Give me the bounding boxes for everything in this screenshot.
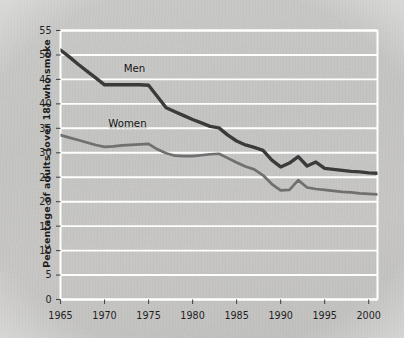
y-tick-label-20: 20 [39, 196, 51, 207]
y-tick-label-35: 35 [39, 123, 51, 134]
series-label-men: Men [124, 63, 146, 74]
x-tick-label-1990: 1990 [268, 310, 292, 321]
y-tick-label-15: 15 [39, 221, 51, 232]
series-label-women: Women [108, 118, 146, 129]
gridlines [61, 31, 378, 300]
y-tick-label-10: 10 [39, 245, 51, 256]
x-tick-label-1965: 1965 [48, 310, 72, 321]
plot-area: 0510152025303540455055 19651970197519801… [0, 0, 404, 338]
x-tick-label-1980: 1980 [180, 310, 204, 321]
smoking-prevalence-line-chart: Percentage of adults (over 18) who smoke… [0, 0, 404, 338]
y-tick-label-50: 50 [39, 49, 51, 60]
x-axis-tick-labels: 19651970197519801985199019952000 [48, 300, 381, 321]
y-tick-label-0: 0 [45, 294, 51, 305]
y-tick-label-25: 25 [39, 172, 51, 183]
x-tick-label-1985: 1985 [224, 310, 248, 321]
y-tick-label-30: 30 [39, 147, 51, 158]
axis-frame [61, 31, 378, 300]
series-line-women [61, 135, 378, 194]
series-inline-labels: MenMenWomenWomen [108, 63, 146, 130]
x-tick-label-2000: 2000 [356, 310, 380, 321]
y-axis-tick-labels: 0510152025303540455055 [39, 25, 60, 305]
y-tick-label-55: 55 [39, 25, 51, 36]
x-tick-label-1975: 1975 [136, 310, 160, 321]
y-tick-label-45: 45 [39, 74, 51, 85]
x-tick-label-1970: 1970 [92, 310, 116, 321]
x-tick-label-1995: 1995 [312, 310, 336, 321]
y-tick-label-5: 5 [45, 269, 51, 280]
y-tick-label-40: 40 [39, 98, 51, 109]
